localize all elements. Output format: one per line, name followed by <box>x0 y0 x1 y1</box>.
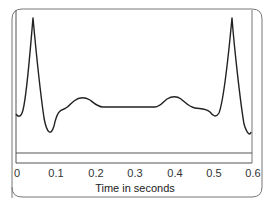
x-tick-label: 0.4 <box>167 167 182 179</box>
x-tick-label: 0.1 <box>48 167 63 179</box>
x-tick-label: 0.6 <box>245 167 260 179</box>
x-tick-label: 0.2 <box>88 167 103 179</box>
chart-frame-bottom-left <box>12 187 22 197</box>
x-tick-label: 0.3 <box>127 167 142 179</box>
x-tick-label: 0 <box>14 167 20 179</box>
waveform-line <box>16 18 251 134</box>
x-tick-label: 0.5 <box>206 167 221 179</box>
chart: 0 0.1 0.2 0.3 0.4 0.5 0.6 Time in second… <box>0 0 269 203</box>
x-axis-label: Time in seconds <box>95 182 175 194</box>
